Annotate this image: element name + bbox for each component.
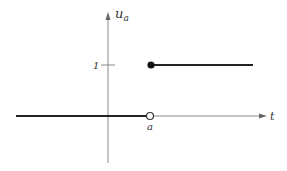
x-axis-label: t (270, 110, 275, 123)
unit-step-chart: ua t a 1 (0, 0, 287, 171)
x-axis-arrow-icon (259, 114, 267, 119)
filled-circle-icon (147, 61, 154, 68)
y-axis-arrow-icon (106, 12, 111, 20)
y-axis-label: ua (115, 6, 129, 23)
open-circle-icon (147, 113, 154, 120)
tick-label-1: 1 (93, 60, 99, 71)
tick-label-a: a (147, 121, 153, 132)
